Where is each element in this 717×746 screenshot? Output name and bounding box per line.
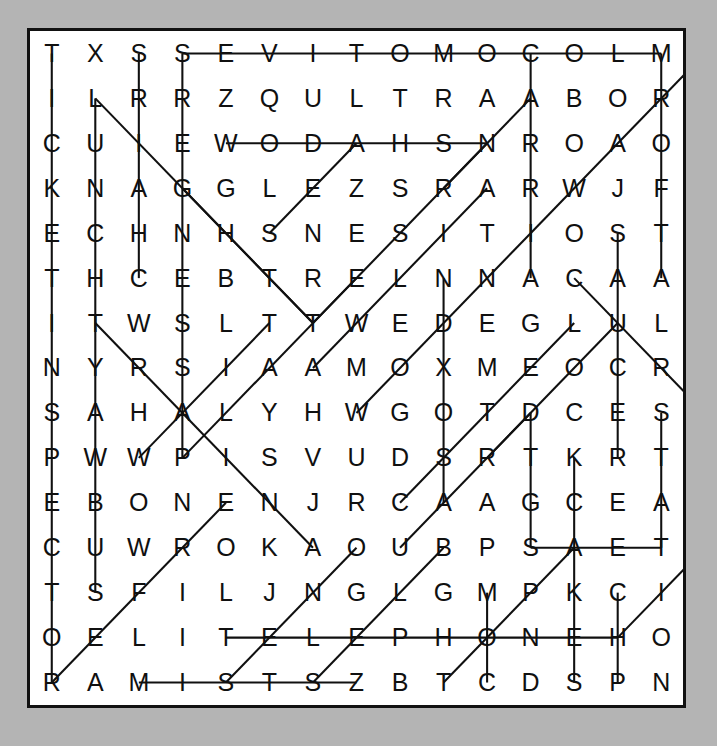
grid-cell[interactable]: M (422, 31, 466, 76)
grid-cell[interactable]: S (204, 660, 248, 705)
grid-cell[interactable]: A (509, 256, 553, 301)
grid-cell[interactable]: E (204, 31, 248, 76)
grid-cell[interactable]: S (248, 211, 292, 256)
grid-cell[interactable]: T (378, 76, 422, 121)
grid-cell[interactable]: T (335, 31, 379, 76)
grid-cell[interactable]: V (291, 435, 335, 480)
grid-cell[interactable]: R (509, 166, 553, 211)
grid-cell[interactable]: T (422, 660, 466, 705)
grid-cell[interactable]: Y (74, 346, 118, 391)
grid-cell[interactable]: E (74, 615, 118, 660)
grid-cell[interactable]: I (291, 31, 335, 76)
grid-cell[interactable]: P (30, 435, 74, 480)
grid-cell[interactable]: W (117, 301, 161, 346)
grid-cell[interactable]: O (335, 525, 379, 570)
grid-cell[interactable]: O (422, 390, 466, 435)
grid-cell[interactable]: R (422, 166, 466, 211)
grid-cell[interactable]: E (204, 480, 248, 525)
grid-cell[interactable]: D (509, 390, 553, 435)
grid-cell[interactable]: A (291, 346, 335, 391)
grid-cell[interactable]: C (378, 480, 422, 525)
grid-cell[interactable]: N (161, 211, 205, 256)
grid-cell[interactable]: E (335, 256, 379, 301)
grid-cell[interactable]: W (335, 301, 379, 346)
grid-cell[interactable]: V (248, 31, 292, 76)
grid-cell[interactable]: E (30, 480, 74, 525)
grid-cell[interactable]: T (639, 435, 683, 480)
grid-cell[interactable]: E (509, 346, 553, 391)
grid-cell[interactable]: W (117, 435, 161, 480)
grid-cell[interactable]: L (639, 301, 683, 346)
grid-cell[interactable]: M (465, 570, 509, 615)
grid-cell[interactable]: G (335, 570, 379, 615)
grid-cell[interactable]: S (422, 435, 466, 480)
grid-cell[interactable]: K (248, 525, 292, 570)
grid-cell[interactable]: S (291, 660, 335, 705)
grid-cell[interactable]: U (74, 525, 118, 570)
grid-cell[interactable]: A (509, 76, 553, 121)
grid-cell[interactable]: N (422, 256, 466, 301)
grid-cell[interactable]: O (639, 121, 683, 166)
grid-cell[interactable]: E (291, 166, 335, 211)
grid-cell[interactable]: K (552, 570, 596, 615)
grid-cell[interactable]: N (248, 480, 292, 525)
grid-cell[interactable]: S (161, 301, 205, 346)
grid-cell[interactable]: E (465, 301, 509, 346)
grid-cell[interactable]: G (509, 480, 553, 525)
grid-cell[interactable]: O (378, 31, 422, 76)
grid-cell[interactable]: F (117, 570, 161, 615)
grid-cell[interactable]: M (639, 31, 683, 76)
grid-cell[interactable]: I (204, 435, 248, 480)
grid-cell[interactable]: T (30, 256, 74, 301)
grid-cell[interactable]: J (596, 166, 640, 211)
grid-cell[interactable]: G (422, 570, 466, 615)
grid-cell[interactable]: C (74, 211, 118, 256)
grid-cell[interactable]: S (378, 166, 422, 211)
grid-cell[interactable]: O (552, 31, 596, 76)
grid-cell[interactable]: B (422, 525, 466, 570)
grid-cell[interactable]: S (509, 525, 553, 570)
grid-cell[interactable]: H (378, 121, 422, 166)
grid-cell[interactable]: P (465, 525, 509, 570)
grid-cell[interactable]: T (248, 301, 292, 346)
grid-cell[interactable]: I (639, 570, 683, 615)
grid-cell[interactable]: T (639, 525, 683, 570)
grid-cell[interactable]: A (465, 76, 509, 121)
grid-cell[interactable]: R (117, 76, 161, 121)
grid-cell[interactable]: A (74, 390, 118, 435)
grid-cell[interactable]: H (117, 390, 161, 435)
grid-cell[interactable]: I (161, 615, 205, 660)
grid-cell[interactable]: T (74, 301, 118, 346)
grid-cell[interactable]: S (117, 31, 161, 76)
grid-cell[interactable]: N (161, 480, 205, 525)
grid-cell[interactable]: L (378, 570, 422, 615)
grid-cell[interactable]: C (552, 256, 596, 301)
grid-cell[interactable]: A (161, 390, 205, 435)
grid-cell[interactable]: I (204, 346, 248, 391)
grid-cell[interactable]: Z (335, 166, 379, 211)
grid-cell[interactable]: C (596, 570, 640, 615)
grid-cell[interactable]: B (74, 480, 118, 525)
grid-cell[interactable]: I (161, 660, 205, 705)
grid-cell[interactable]: H (596, 615, 640, 660)
grid-cell[interactable]: A (117, 166, 161, 211)
grid-cell[interactable]: U (596, 301, 640, 346)
grid-cell[interactable]: H (422, 615, 466, 660)
grid-cell[interactable]: E (552, 615, 596, 660)
grid-cell[interactable]: T (291, 301, 335, 346)
grid-cell[interactable]: U (74, 121, 118, 166)
grid-cell[interactable]: O (552, 346, 596, 391)
grid-cell[interactable]: O (465, 31, 509, 76)
grid-cell[interactable]: C (117, 256, 161, 301)
grid-cell[interactable]: U (335, 435, 379, 480)
grid-cell[interactable]: W (204, 121, 248, 166)
grid-cell[interactable]: T (204, 615, 248, 660)
grid-cell[interactable]: K (30, 166, 74, 211)
grid-cell[interactable]: H (291, 390, 335, 435)
grid-cell[interactable]: S (639, 390, 683, 435)
grid-cell[interactable]: S (74, 570, 118, 615)
grid-cell[interactable]: G (161, 166, 205, 211)
grid-cell[interactable]: E (335, 211, 379, 256)
grid-cell[interactable]: E (596, 525, 640, 570)
grid-cell[interactable]: E (335, 615, 379, 660)
